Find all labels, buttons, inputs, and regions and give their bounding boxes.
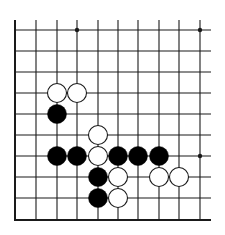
star-point-icon	[198, 154, 202, 158]
black-stone[interactable]	[150, 147, 169, 166]
black-stone[interactable]	[89, 168, 108, 187]
white-stone[interactable]	[109, 168, 128, 187]
black-stone[interactable]	[68, 147, 87, 166]
black-stone[interactable]	[48, 105, 67, 124]
white-stone[interactable]	[89, 147, 108, 166]
black-stone[interactable]	[89, 189, 108, 208]
black-stone[interactable]	[48, 147, 67, 166]
star-point-icon	[198, 28, 202, 32]
white-stone[interactable]	[89, 126, 108, 145]
white-stone[interactable]	[150, 168, 169, 187]
white-stone[interactable]	[170, 168, 189, 187]
star-point-icon	[75, 28, 79, 32]
black-stone[interactable]	[129, 147, 148, 166]
white-stone[interactable]	[68, 84, 87, 103]
black-stone[interactable]	[109, 147, 128, 166]
go-board	[0, 0, 225, 235]
white-stone[interactable]	[109, 189, 128, 208]
white-stone[interactable]	[48, 84, 67, 103]
